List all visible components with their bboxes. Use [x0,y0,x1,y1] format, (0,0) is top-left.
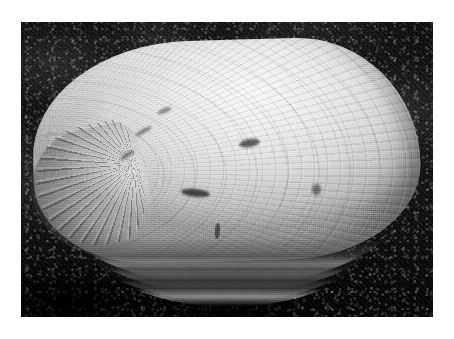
shell-margin-ridge-4 [76,223,382,307]
page-canvas: Grayscale photograph of a bivalve clam s… [0,0,454,339]
photograph [21,22,433,317]
clam-shell [33,40,420,303]
